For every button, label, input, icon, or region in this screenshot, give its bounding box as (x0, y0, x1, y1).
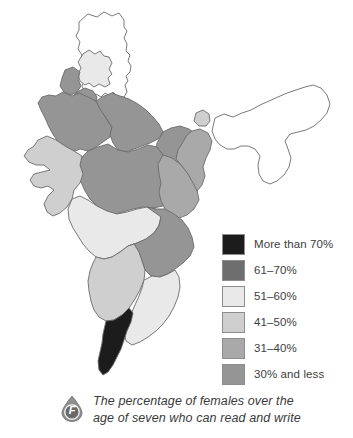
legend-item: More than 70% (222, 231, 353, 257)
legend-label-31-40: 31–40% (254, 342, 297, 355)
legend-label-more-than-70: More than 70% (254, 238, 333, 251)
legend-label-61-70: 61–70% (254, 264, 297, 277)
caption-line-1: The percentage of females over the (93, 393, 301, 410)
legend-swatch-61-70 (222, 260, 245, 281)
legend-item: 31–40% (222, 335, 353, 361)
legend-item: 61–70% (222, 257, 353, 283)
droplet-marker-icon: F (61, 395, 85, 423)
map-region-punjab (60, 67, 81, 95)
legend-label-41-50: 41–50% (254, 316, 297, 329)
legend-swatch-41-50 (222, 312, 245, 333)
legend-swatch-more-than-70 (222, 234, 245, 255)
legend-item: 51–60% (222, 283, 353, 309)
caption-text: The percentage of females over the age o… (93, 393, 301, 427)
caption-line-2: age of seven who can read and write (93, 410, 301, 427)
map-caption: F The percentage of females over the age… (61, 393, 353, 427)
map-region-north-eastern-states (212, 85, 330, 184)
map-legend: More than 70% 61–70% 51–60% 41–50% 31–40… (222, 231, 353, 387)
choropleth-map-figure: More than 70% 61–70% 51–60% 41–50% 31–40… (0, 0, 353, 438)
map-region-sikkim (194, 110, 210, 126)
legend-label-51-60: 51–60% (254, 290, 297, 303)
legend-item: 41–50% (222, 309, 353, 335)
legend-swatch-30-and-less (222, 364, 245, 385)
legend-swatch-51-60 (222, 286, 245, 307)
legend-label-30-and-less: 30% and less (254, 368, 324, 381)
legend-item: 30% and less (222, 361, 353, 387)
droplet-icon (61, 395, 83, 422)
legend-swatch-31-40 (222, 338, 245, 359)
